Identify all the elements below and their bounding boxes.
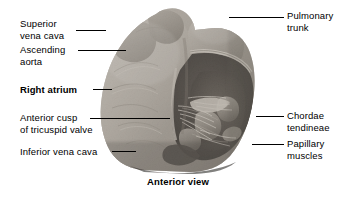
label-papillary-muscles: Papillary muscles [287, 138, 324, 161]
leader-line-inferior-vena-cava [112, 151, 136, 152]
leader-line-superior-vena-cava [76, 30, 106, 31]
anatomy-figure: Superior vena cava Ascending aorta Right… [0, 0, 356, 197]
leader-line-pulmonary-trunk [229, 17, 284, 18]
leader-line-papillary-muscles [252, 144, 284, 145]
myocardium-mass [96, 2, 260, 174]
label-chordae-tendineae: Chordae tendineae [287, 110, 330, 133]
figure-caption: Anterior view [0, 176, 356, 187]
label-anterior-cusp-of-tricuspid-valve: Anterior cusp of tricuspid valve [20, 112, 93, 135]
leader-line-anterior-cusp-of-tricuspid-valve [90, 118, 170, 119]
leader-line-chordae-tendineae [256, 116, 284, 117]
label-inferior-vena-cava: Inferior vena cava [20, 146, 97, 158]
label-right-atrium: Right atrium [20, 84, 77, 96]
heart-specimen-photograph [96, 2, 260, 174]
label-pulmonary-trunk: Pulmonary trunk [287, 10, 333, 33]
leader-line-ascending-aorta [78, 50, 126, 51]
leader-line-right-atrium [93, 89, 112, 90]
heart-specimen-graphic [96, 2, 260, 174]
label-superior-vena-cava: Superior vena cava [20, 18, 64, 41]
label-ascending-aorta: Ascending aorta [20, 44, 65, 67]
